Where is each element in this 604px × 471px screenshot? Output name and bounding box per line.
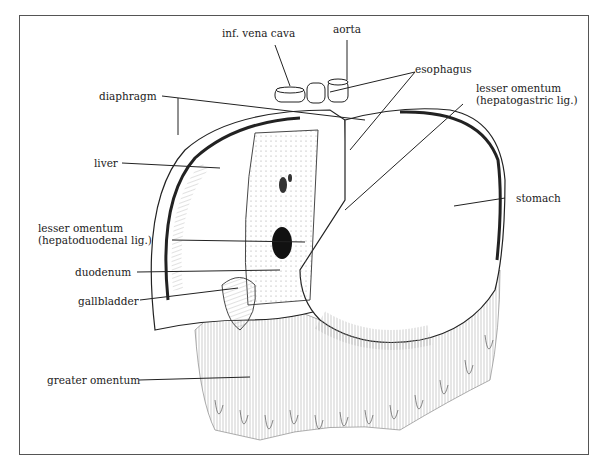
label-liver: liver — [94, 157, 118, 169]
label-inf-vena-cava: inf. vena cava — [222, 27, 295, 39]
epiploic-foramen — [272, 227, 292, 259]
label-esophagus: esophagus — [415, 63, 472, 75]
vessels — [275, 79, 348, 103]
label-stomach: stomach — [516, 192, 561, 204]
ligament-cut-surface — [245, 130, 318, 305]
label-line-2: (hepatoduodenal lig.) — [38, 234, 152, 246]
label-line-1: lesser omentum — [38, 222, 152, 234]
label-greater-omentum: greater omentum — [47, 374, 140, 386]
label-duodenum: duodenum — [75, 266, 131, 278]
label-lesser-omentum-hepatogastric: lesser omentum (hepatogastric lig.) — [476, 82, 578, 106]
label-lesser-omentum-hepatoduodenal: lesser omentum (hepatoduodenal lig.) — [38, 222, 152, 246]
label-line-2: (hepatogastric lig.) — [476, 94, 578, 106]
label-aorta: aorta — [333, 23, 361, 35]
label-line-1: lesser omentum — [476, 82, 578, 94]
label-diaphragm: diaphragm — [99, 90, 157, 102]
label-gallbladder: gallbladder — [78, 295, 139, 307]
